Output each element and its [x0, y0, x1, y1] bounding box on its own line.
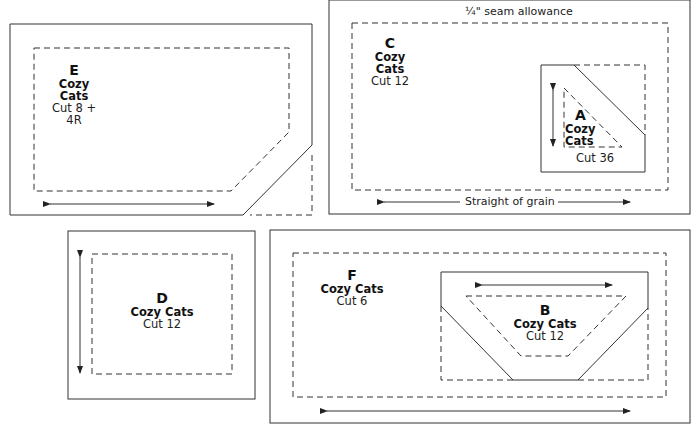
piece-name: Cozy Cats [44, 78, 104, 102]
piece-cut: Cut 6 [320, 295, 384, 307]
piece-name-line2: Cats [565, 135, 597, 147]
piece-letter: A [565, 108, 597, 123]
piece-letter: E [44, 63, 104, 78]
piece-c-label: C Cozy Cats Cut 12 [360, 36, 420, 87]
piece-name-line1: Cozy [565, 123, 597, 135]
piece-b-label: B Cozy Cats Cut 12 [513, 303, 577, 342]
piece-letter: B [513, 303, 577, 318]
piece-e-label: E Cozy Cats Cut 8 + 4R [44, 63, 104, 126]
straight-of-grain-note: Straight of grain [462, 195, 558, 208]
piece-name: Cozy Cats [320, 283, 384, 295]
piece-letter: F [320, 268, 384, 283]
piece-cut: Cut 8 + 4R [44, 102, 104, 126]
piece-cut: Cut 12 [513, 330, 577, 342]
piece-f-outline [270, 230, 690, 423]
piece-name: Cozy Cats [130, 306, 194, 318]
piece-a-cut: Cut 36 [570, 152, 620, 164]
piece-letter: D [130, 291, 194, 306]
piece-c-outline [329, 0, 690, 214]
piece-f-label: F Cozy Cats Cut 6 [320, 268, 384, 307]
piece-d-label: D Cozy Cats Cut 12 [130, 291, 194, 330]
seam-allowance-note: ¼" seam allowance [462, 5, 576, 18]
piece-cut: Cut 12 [130, 318, 194, 330]
piece-name: Cozy Cats [513, 318, 577, 330]
piece-a-label: A Cozy Cats [565, 108, 597, 147]
piece-name: Cozy Cats [360, 51, 420, 75]
piece-letter: C [360, 36, 420, 51]
piece-cut: Cut 12 [360, 75, 420, 87]
